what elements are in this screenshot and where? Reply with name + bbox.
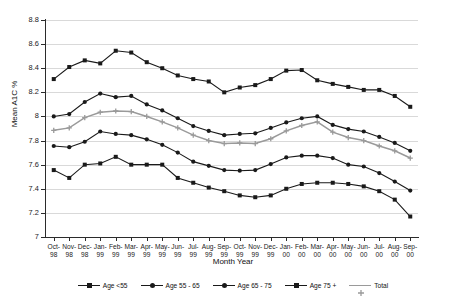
legend-point [294,283,299,288]
data-point-circle [160,143,164,147]
data-point-circle [52,144,56,148]
data-point-square [253,195,257,199]
data-point-circle [238,169,242,173]
data-point-square [67,176,71,180]
data-point-square [145,163,149,167]
data-point-square [160,66,164,70]
data-point-circle [377,171,381,175]
data-point-cross [206,138,211,143]
data-point-circle [300,154,304,158]
data-point-square [300,182,304,186]
data-point-square [160,163,164,167]
data-point-square [393,94,397,98]
data-point-circle [331,156,335,160]
data-point-square [331,181,335,185]
data-point-cross [408,155,413,160]
data-point-circle [191,160,195,164]
data-point-circle [284,120,288,124]
data-point-circle [222,133,226,137]
data-point-cross [392,148,397,153]
data-point-cross [237,140,242,145]
legend-cross-icon [358,282,364,288]
legend-item: Total [349,281,388,289]
series-age-75 [52,49,413,109]
data-point-square [145,60,149,64]
data-point-circle [315,114,319,118]
legend-item: Age 55 - 65 [141,281,200,289]
data-point-square [191,77,195,81]
data-point-circle [52,114,56,118]
data-point-cross [361,138,366,143]
data-point-square [377,189,381,193]
data-point-square [207,186,211,190]
data-point-cross [299,123,304,128]
legend-marker-icon [78,281,100,289]
data-point-circle [331,123,335,127]
data-point-square [129,163,133,167]
series-layer [0,0,466,302]
data-point-square [129,51,133,55]
legend-label: Age <55 [103,282,128,289]
data-point-circle [129,94,133,98]
data-point-circle [191,124,195,128]
data-point-circle [176,151,180,155]
data-point-circle [253,168,257,172]
legend-marker-icon [349,281,371,289]
data-point-square [222,90,226,94]
data-point-cross [191,133,196,138]
data-point-circle [83,100,87,104]
series-line [54,51,411,107]
data-point-cross [253,141,258,146]
legend-marker-icon [213,281,235,289]
data-point-square [300,68,304,72]
data-point-circle [145,102,149,106]
data-point-square [67,65,71,69]
data-point-circle [346,163,350,167]
data-point-circle [207,164,211,168]
data-point-square [315,181,319,185]
legend-point [87,283,92,288]
data-point-circle [269,162,273,166]
data-point-cross [160,119,165,124]
data-point-circle [269,126,273,130]
data-point-square [222,189,226,193]
data-point-cross [284,128,289,133]
data-point-square [408,215,412,219]
data-point-square [284,187,288,191]
data-point-cross [346,135,351,140]
legend: Age <55Age 55 - 65Age 65 - 75Age 75 +Tot… [0,281,466,289]
legend-item: Age 65 - 75 [213,281,272,289]
data-point-circle [98,91,102,95]
data-point-circle [284,155,288,159]
data-point-circle [362,129,366,133]
data-point-cross [98,110,103,115]
data-point-circle [300,116,304,120]
data-point-circle [145,137,149,141]
legend-marker-icon [141,281,163,289]
legend-marker-icon [285,281,307,289]
data-point-cross [129,109,134,114]
data-point-square [393,198,397,202]
data-point-circle [238,132,242,136]
legend-label: Total [374,282,388,289]
data-point-square [114,155,118,159]
data-point-circle [315,154,319,158]
data-point-cross [377,143,382,148]
data-point-cross [222,141,227,146]
data-point-cross [51,128,56,133]
data-point-circle [83,140,87,144]
data-point-square [253,83,257,87]
data-point-circle [98,129,102,133]
data-point-square [83,163,87,167]
series-age-55 [52,155,413,219]
legend-label: Age 65 - 75 [238,282,272,289]
data-point-circle [253,131,257,135]
data-point-circle [408,188,412,192]
data-point-circle [67,112,71,116]
data-point-square [269,77,273,81]
legend-label: Age 75 + [310,282,337,289]
data-point-circle [160,108,164,112]
data-point-square [52,77,56,81]
series-line [54,94,411,151]
legend-item: Age <55 [78,281,128,289]
